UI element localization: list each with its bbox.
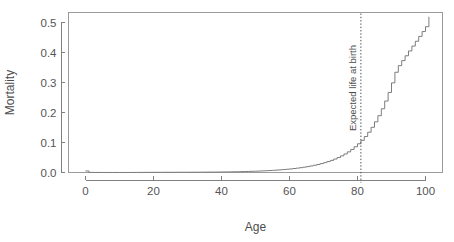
plot-frame: [69, 13, 443, 173]
y-axis-tick-label: 0.4: [41, 47, 58, 59]
x-axis-tick-label: 80: [351, 185, 364, 197]
mortality-chart-figure: 0.00.10.20.30.40.5020406080100AgeMortali…: [0, 0, 454, 242]
expected-life-annotation-label: Expected life at birth: [347, 45, 358, 131]
y-axis-title: Mortality: [3, 70, 17, 115]
y-axis-tick-label: 0.5: [41, 17, 57, 29]
mortality-chart-svg: 0.00.10.20.30.40.5020406080100AgeMortali…: [0, 0, 454, 242]
x-axis-tick-label: 20: [147, 185, 160, 197]
mortality-curve: [86, 17, 429, 173]
x-axis-tick-label: 60: [283, 185, 296, 197]
x-axis-tick-label: 100: [416, 185, 435, 197]
x-axis-tick-label: 40: [215, 185, 228, 197]
x-axis-title: Age: [245, 220, 267, 234]
y-axis-tick-label: 0.2: [41, 107, 57, 119]
y-axis-tick-label: 0.0: [41, 167, 57, 179]
y-axis-tick-label: 0.1: [41, 137, 57, 149]
y-axis-tick-label: 0.3: [41, 77, 57, 89]
x-axis-tick-label: 0: [82, 185, 88, 197]
